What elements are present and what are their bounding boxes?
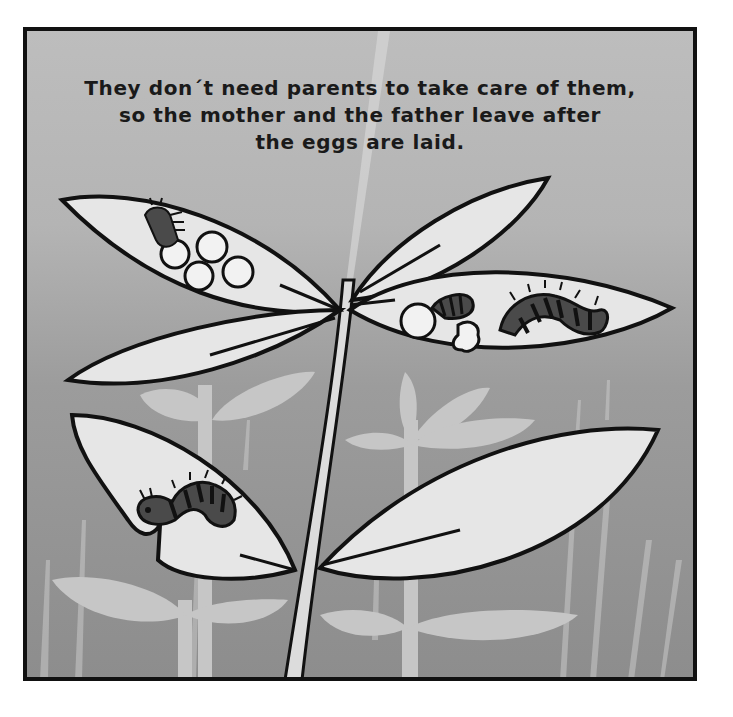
caption-line-2: so the mother and the father leave after: [27, 102, 693, 129]
leaf-middle-left: [68, 310, 340, 384]
illustration-frame: They don´t need parents to take care of …: [23, 27, 697, 681]
eggshell-fragment: [453, 322, 479, 351]
story-caption: They don´t need parents to take care of …: [27, 75, 693, 156]
egg-right-leaf: [401, 304, 435, 338]
caption-line-1: They don´t need parents to take care of …: [27, 75, 693, 102]
caption-line-3: the eggs are laid.: [27, 129, 693, 156]
book-page: They don´t need parents to take care of …: [0, 0, 733, 717]
